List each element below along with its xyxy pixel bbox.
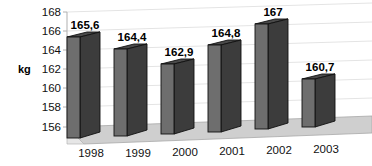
bar-value-2000: 162,9 <box>165 46 194 58</box>
x-tick-label-2001: 2001 <box>219 145 245 157</box>
bar-2001[interactable] <box>208 40 241 132</box>
chart-canvas: 168 166 164 162 160 158 156 kg <box>0 0 372 166</box>
y-axis-title: kg <box>18 63 31 75</box>
bar-side-face <box>80 32 100 138</box>
y-tick-label-168: 168 <box>42 6 61 18</box>
x-tick-label-2000: 2000 <box>172 146 198 158</box>
bar-value-2001: 164,8 <box>212 27 241 39</box>
x-tick-label-2002: 2002 <box>266 144 292 156</box>
x-tick-label-1999: 1999 <box>125 147 151 159</box>
y-tick-label-164: 164 <box>42 44 62 56</box>
bar-1998[interactable] <box>67 32 100 138</box>
bar-side-face <box>174 59 194 134</box>
bar-side-face <box>315 74 335 127</box>
bar-front-face <box>255 24 268 129</box>
bar-2003[interactable] <box>302 74 335 127</box>
y-tick-label-156: 156 <box>42 121 61 133</box>
bar-side-face <box>221 40 241 132</box>
bar-1999[interactable] <box>114 44 147 136</box>
bar-side-face <box>268 19 288 129</box>
y-tick-label-158: 158 <box>42 101 61 113</box>
bar-front-face <box>302 79 315 127</box>
bar-front-face <box>114 49 127 136</box>
y-tick-label-166: 166 <box>42 25 61 37</box>
bar-front-face <box>161 64 174 134</box>
bar-value-2003: 160,7 <box>306 61 335 73</box>
bar-side-face <box>127 44 147 136</box>
bar-2000[interactable] <box>161 59 194 134</box>
bar-value-1998: 165,6 <box>71 19 100 31</box>
x-tick-label-2003: 2003 <box>313 143 339 155</box>
bar-value-1999: 164,4 <box>118 31 147 43</box>
y-tick-label-162: 162 <box>42 63 61 75</box>
x-tick-label-1998: 1998 <box>78 147 104 159</box>
y-tick-label-160: 160 <box>42 82 61 94</box>
bar-2002[interactable] <box>255 19 288 129</box>
bar-front-face <box>208 45 221 132</box>
bar-value-2002: 167 <box>263 6 282 18</box>
bar-chart: 168 166 164 162 160 158 156 kg <box>0 0 372 166</box>
bar-front-face <box>67 37 80 138</box>
